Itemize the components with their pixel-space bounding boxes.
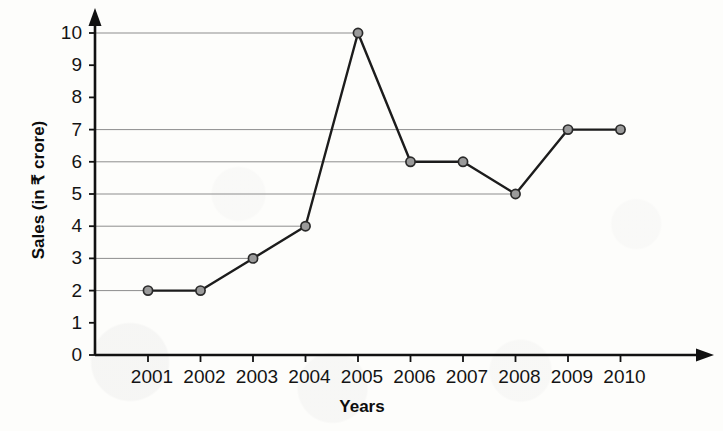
- data-point-2003: [248, 254, 257, 263]
- data-point-2006: [406, 157, 415, 166]
- line-chart-figure: 012345678910 200120022003200420052006200…: [0, 0, 723, 431]
- x-tick-label-2001: 2001: [131, 366, 173, 387]
- x-axis-title: Years: [339, 397, 384, 416]
- x-tick-label-2008: 2008: [498, 366, 540, 387]
- data-point-2007: [458, 157, 467, 166]
- y-tick-label-6: 6: [71, 151, 82, 172]
- x-tick-label-2003: 2003: [236, 366, 278, 387]
- data-point-2010: [616, 125, 625, 134]
- y-tick-label-3: 3: [71, 247, 82, 268]
- x-tick-label-group: 2001200220032004200520062007200820092010: [131, 366, 646, 387]
- y-tick-label-0: 0: [71, 344, 82, 365]
- y-tick-label-5: 5: [71, 183, 82, 204]
- x-tick-label-2005: 2005: [341, 366, 383, 387]
- y-tick-label-7: 7: [71, 119, 82, 140]
- chart-canvas: 012345678910 200120022003200420052006200…: [0, 0, 723, 431]
- x-tick-label-2004: 2004: [288, 366, 331, 387]
- x-tick-label-2009: 2009: [551, 366, 593, 387]
- data-point-2001: [143, 286, 152, 295]
- data-point-2008: [511, 189, 520, 198]
- x-axis-arrow-icon: [696, 349, 714, 362]
- y-tick-label-1: 1: [71, 312, 82, 333]
- data-point-2005: [353, 28, 362, 37]
- data-point-2009: [563, 125, 572, 134]
- y-tick-label-10: 10: [61, 22, 82, 43]
- y-tick-label-4: 4: [71, 215, 82, 236]
- y-tick-label-group: 012345678910: [61, 22, 83, 365]
- y-tick-label-9: 9: [71, 54, 82, 75]
- y-tick-label-8: 8: [71, 86, 82, 107]
- x-tick-label-2006: 2006: [393, 366, 435, 387]
- data-point-2004: [301, 222, 310, 231]
- y-tick-label-2: 2: [71, 280, 82, 301]
- y-axis-arrow-icon: [89, 8, 102, 26]
- x-tick-label-2010: 2010: [603, 366, 645, 387]
- data-point-2002: [196, 286, 205, 295]
- x-tick-label-2002: 2002: [183, 366, 225, 387]
- x-tick-label-2007: 2007: [446, 366, 488, 387]
- y-axis-title: Sales (in ₹ crore): [29, 121, 48, 260]
